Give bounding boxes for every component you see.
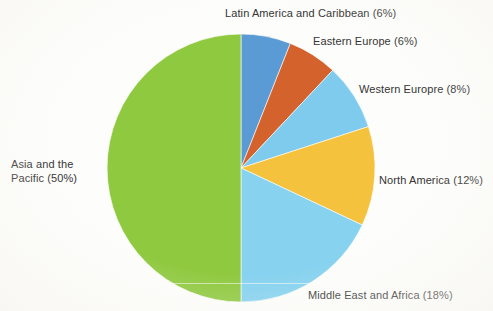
slice-label-north-america: North America (12%) [379, 174, 483, 188]
slice-label-eastern-europe: Eastern Europe (6%) [313, 35, 418, 49]
slice-label-asia-line-1: Asia and the [11, 158, 73, 170]
pie-chart-canvas [0, 0, 493, 311]
pie-slice-asia-and-the-pacific[interactable] [107, 34, 241, 302]
slice-label-asia-and-the-pacific: Asia and thePacific (50%) [11, 158, 77, 185]
pie-slices-group [107, 34, 375, 302]
slice-label-western-europe: Western Europre (8%) [359, 83, 470, 97]
pie-chart-figure: Latin America and Caribbean (6%) Eastern… [0, 0, 493, 311]
slice-label-middle-east-and-africa: Middle East and Africa (18%) [308, 289, 453, 303]
slice-label-latin-america-and-caribbean: Latin America and Caribbean (6%) [225, 7, 396, 21]
slice-label-asia-line-2: Pacific (50%) [11, 172, 77, 184]
